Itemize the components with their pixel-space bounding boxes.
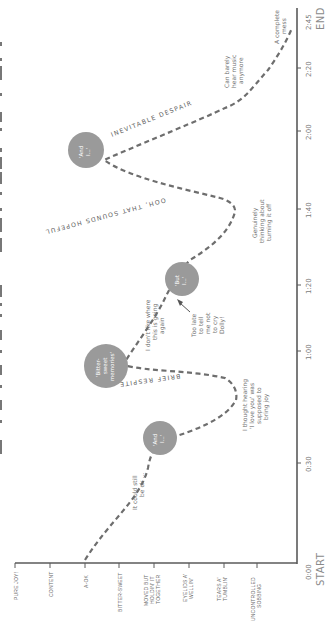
svg-text:SOBBING: SOBBING: [256, 584, 262, 608]
time-tick-2-00: 2:00: [305, 124, 313, 140]
time-tick-1-20: 1:20: [305, 278, 313, 294]
emotion-label-bitter-sweet: BITTER-SWEET: [117, 572, 123, 612]
svg-text:bring joy: bring joy: [262, 393, 270, 420]
title-fragment: [0, 42, 2, 454]
svg-text:to tell: to tell: [197, 316, 204, 334]
time-tick-1-40: 1:40: [305, 202, 313, 218]
svg-text:It could still: It could still: [131, 475, 138, 510]
phase-hopeful: OOH, THAT SOUNDS HOPEFUL: [44, 197, 166, 236]
phase-inevitable-despair: INEVITABLE DESPAIR: [110, 99, 193, 138]
time-axis: 0:00 START 0:30 1:00 1:20 1:40 2:00 2:20…: [297, 7, 326, 586]
emotion-label-content: CONTENT: [48, 571, 54, 597]
svg-text:'And: 'And: [78, 146, 84, 158]
bubble-but-i: 'But I...': [165, 262, 199, 296]
svg-text:be ok ...: be ok ...: [138, 473, 145, 497]
note-dont-like-where: I don't like where this is going again: [144, 299, 166, 351]
time-tick-2-20: 2:20: [305, 61, 313, 77]
svg-text:hear music: hear music: [230, 55, 237, 88]
svg-text:I don't like where: I don't like where: [144, 299, 151, 351]
svg-text:WELLIN': WELLIN': [188, 578, 194, 599]
svg-text:TUMBLIN': TUMBLIN': [222, 576, 228, 601]
svg-text:TOGETHER: TOGETHER: [155, 575, 161, 604]
bubble-and-i-1: 'And I...': [143, 421, 177, 455]
pointer-arrow: [177, 299, 190, 312]
svg-text:me not: me not: [204, 312, 211, 334]
svg-text:anymore: anymore: [237, 57, 245, 84]
svg-text:mess: mess: [280, 18, 287, 34]
emotion-label-pure-joy: PURE JOY!: [13, 572, 19, 600]
time-tick-1-00: 1:00: [305, 344, 313, 360]
emotion-label-a-ok: A-OK: [83, 575, 89, 588]
note-can-barely-hear: Can barely hear music anymore: [223, 55, 245, 88]
svg-text:turning it off: turning it off: [265, 203, 273, 241]
emotion-label-eyelids: EYELIDS A' WELLIN': [182, 573, 194, 602]
note-complete-mess: A complete mess: [273, 10, 287, 44]
svg-text:sweet: sweet: [102, 357, 108, 374]
time-end-label: END: [315, 7, 326, 30]
svg-text:I...': I...': [85, 148, 91, 156]
time-tick-2-45: 2:45: [305, 14, 313, 30]
note-thought-hearing: I thought hearing 'I love you' was suppo…: [241, 379, 270, 431]
time-start-label: START: [315, 552, 326, 586]
bubble-and-i-2: 'And I...': [68, 132, 104, 168]
emotion-label-moved: MOVED BUT HOLDIN' IT TOGETHER: [143, 574, 161, 606]
svg-text:again: again: [158, 317, 166, 334]
emotional-journey-chart: PURE JOY! CONTENT A-OK BITTER-SWEET MOVE…: [0, 0, 330, 634]
svg-text:'But: 'But: [174, 274, 180, 286]
emotion-label-tears: TEARS A' TUMBLIN': [216, 576, 228, 601]
time-tick-0-30: 0:30: [305, 456, 313, 472]
note-too-late: Too late to tell me not to cry Dolly!: [190, 312, 226, 338]
svg-text:memories': memories': [109, 352, 115, 381]
emotion-label-sobbing: UNCONTROLLED SOBBING: [250, 577, 262, 621]
note-genuinely-thinking: Genuinely thinking about turning it off: [251, 199, 273, 243]
note-could-still-be-ok: It could still be ok ...: [131, 473, 145, 510]
time-tick-0-00: 0:00: [305, 564, 313, 580]
svg-text:I...': I...': [181, 277, 187, 285]
emotion-axis: PURE JOY! CONTENT A-OK BITTER-SWEET MOVE…: [13, 563, 297, 621]
svg-text:'And: 'And: [152, 434, 158, 446]
svg-text:I...': I...': [159, 435, 165, 443]
svg-text:'Bitter-: 'Bitter-: [95, 359, 101, 377]
svg-text:Too late: Too late: [190, 313, 197, 338]
svg-text:Dolly!: Dolly!: [218, 316, 226, 334]
phase-brief-respite: BRIEF RESPITE: [118, 373, 180, 389]
